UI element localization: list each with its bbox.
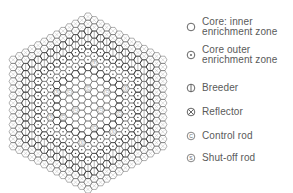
legend-label: Core outer enrichment zone [202, 45, 277, 65]
legend-item-reflector: Reflector [186, 107, 243, 117]
svg-text:C: C [93, 126, 95, 130]
legend-label: Reflector [202, 107, 243, 117]
legend-label: Breeder [202, 83, 238, 93]
svg-text:C: C [75, 108, 77, 112]
fuel-assembly-reflector [159, 128, 167, 135]
fuel-assembly-reflector [159, 78, 167, 85]
x-circle-icon [186, 107, 196, 117]
fuel-assembly-reflector [159, 107, 167, 114]
svg-text:C: C [62, 115, 64, 119]
legend-item-control-rod: C Control rod [186, 131, 253, 141]
svg-text:C: C [87, 87, 89, 91]
s-circle-icon: S [186, 153, 196, 163]
svg-text:C: C [189, 133, 193, 139]
fuel-assembly-reflector [159, 56, 167, 63]
svg-text:S: S [56, 90, 58, 94]
svg-text:S: S [124, 87, 126, 91]
reactor-core-lattice: SSCCCSCSCCCSCS [0, 0, 180, 193]
legend-label: Shut-off rod [202, 153, 255, 163]
dotted-circle-icon [186, 50, 196, 60]
fuel-assembly-reflector [159, 85, 167, 92]
legend-item-shutoff-rod: S Shut-off rod [186, 153, 255, 163]
fuel-assembly-reflector [159, 92, 167, 99]
svg-text:S: S [81, 141, 83, 145]
svg-text:C: C [118, 112, 120, 116]
fuel-assembly-reflector [159, 99, 167, 106]
fuel-assembly-reflector [159, 143, 167, 150]
legend-label: Control rod [202, 131, 253, 141]
svg-text:S: S [189, 155, 193, 161]
legend: Core: inner enrichment zone Core outer e… [186, 0, 293, 193]
fuel-assembly-reflector [159, 71, 167, 78]
fuel-assembly-reflector [159, 114, 167, 121]
legend-item-outer-zone: Core outer enrichment zone [186, 45, 277, 65]
legend-item-breeder: Breeder [186, 83, 238, 93]
vertical-bar-circle-icon [186, 83, 196, 93]
fuel-assembly-reflector [159, 121, 167, 128]
fuel-assembly-reflector [159, 135, 167, 142]
c-circle-icon: C [186, 131, 196, 141]
svg-text:C: C [68, 90, 70, 94]
svg-text:S: S [112, 130, 114, 134]
svg-text:S: S [50, 115, 52, 119]
svg-text:C: C [99, 108, 101, 112]
svg-text:C: C [106, 90, 108, 94]
open-circle-icon [186, 22, 196, 32]
svg-text:S: S [93, 61, 95, 65]
legend-label: Core: inner enrichment zone [202, 17, 277, 37]
fuel-assembly-reflector [159, 63, 167, 70]
legend-item-inner-zone: Core: inner enrichment zone [186, 17, 277, 37]
